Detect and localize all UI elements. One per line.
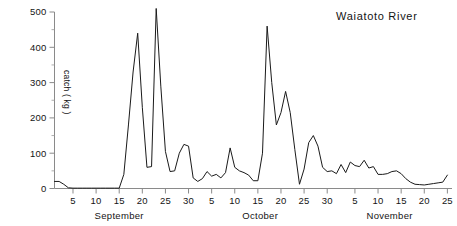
series-group bbox=[55, 8, 448, 188]
series-line-catch bbox=[55, 8, 448, 188]
chart-figure: Waiatoto River 0100200300400500 catch ( … bbox=[0, 0, 457, 226]
x-axis-tick-labels: 5101520253051015202530510152025 bbox=[70, 195, 453, 206]
x-tick-label: 25 bbox=[442, 195, 453, 206]
x-tick-label: 15 bbox=[252, 195, 263, 206]
y-tick-label: 300 bbox=[30, 77, 46, 88]
x-tick-label: 5 bbox=[209, 195, 214, 206]
y-tick-label: 500 bbox=[30, 6, 46, 17]
y-axis-tick-labels: 0100200300400500 bbox=[30, 6, 46, 194]
chart-title: Waiatoto River bbox=[336, 10, 418, 22]
x-tick-label: 15 bbox=[396, 195, 407, 206]
x-tick-label: 20 bbox=[419, 195, 430, 206]
x-month-label: September bbox=[95, 210, 144, 221]
x-tick-label: 30 bbox=[322, 195, 333, 206]
x-month-label: November bbox=[366, 210, 412, 221]
x-axis-ticks bbox=[73, 189, 447, 194]
x-tick-label: 25 bbox=[160, 195, 171, 206]
y-tick-label: 100 bbox=[30, 148, 46, 159]
x-tick-label: 25 bbox=[299, 195, 310, 206]
x-tick-label: 20 bbox=[137, 195, 148, 206]
y-tick-label: 200 bbox=[30, 112, 46, 123]
x-tick-label: 10 bbox=[373, 195, 384, 206]
x-tick-label: 5 bbox=[70, 195, 75, 206]
y-axis-title-group: catch ( kg ) bbox=[62, 70, 72, 114]
x-tick-label: 15 bbox=[114, 195, 125, 206]
chart-svg: Waiatoto River 0100200300400500 catch ( … bbox=[0, 0, 457, 226]
y-tick-label: 400 bbox=[30, 42, 46, 53]
y-axis-title: catch ( kg ) bbox=[62, 70, 72, 114]
x-tick-label: 10 bbox=[91, 195, 102, 206]
x-tick-label: 5 bbox=[352, 195, 357, 206]
x-tick-label: 20 bbox=[275, 195, 286, 206]
x-axis-month-labels: SeptemberOctoberNovember bbox=[95, 210, 413, 221]
x-tick-label: 10 bbox=[229, 195, 240, 206]
x-month-label: October bbox=[242, 210, 278, 221]
y-tick-label: 0 bbox=[41, 183, 46, 194]
x-tick-label: 30 bbox=[183, 195, 194, 206]
chart-title-group: Waiatoto River bbox=[336, 10, 418, 22]
y-axis-ticks bbox=[50, 12, 55, 189]
